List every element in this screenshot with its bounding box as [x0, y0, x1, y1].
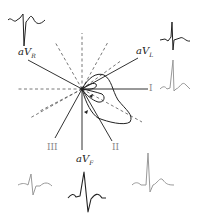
label-avr: aVR — [18, 47, 36, 59]
waveform-avf — [68, 172, 106, 212]
axis-iii — [55, 89, 82, 138]
label-avf: aVF — [76, 154, 93, 166]
diagram-canvas — [0, 0, 209, 220]
waveform-avr — [8, 14, 45, 46]
waveforms — [8, 14, 190, 212]
label-iii: III — [47, 143, 58, 152]
waveform-i — [160, 60, 190, 91]
waveform-avl — [160, 22, 190, 50]
negative-axes — [17, 33, 142, 122]
waveform-iii — [18, 174, 52, 195]
positive-axes — [28, 58, 148, 150]
hexaxial-diagram: aVR aVL I II aVF III — [0, 0, 209, 220]
origin-point — [80, 87, 84, 91]
waveform-ii — [132, 153, 174, 192]
label-ii: II — [112, 143, 119, 152]
vector-loop — [82, 74, 131, 123]
label-avl: aVL — [136, 46, 153, 58]
label-i: I — [149, 84, 153, 93]
